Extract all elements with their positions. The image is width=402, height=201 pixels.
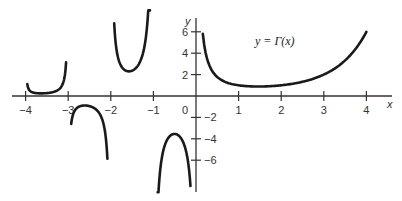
gamma-curve-branch <box>71 106 107 159</box>
y-axis-label: y <box>184 15 192 27</box>
x-axis-label: x <box>386 98 393 110</box>
gamma-curve-branch <box>158 134 191 192</box>
gamma-function-chart: −4−3−2−101234 642−2−4−6 x y y = Γ(x) <box>0 0 402 201</box>
gamma-curve-branch <box>114 10 150 71</box>
x-tick-label: 1 <box>236 104 242 116</box>
y-tick-label: −2 <box>204 111 217 123</box>
x-tick-label: −2 <box>105 104 118 116</box>
x-tick-label: 4 <box>363 104 369 116</box>
x-tick-label: 2 <box>278 104 284 116</box>
function-annotation: y = Γ(x) <box>254 34 295 48</box>
x-tick-label: −1 <box>147 104 160 116</box>
curves <box>27 10 366 192</box>
x-tick-label: 3 <box>321 104 327 116</box>
y-tick-label: −6 <box>204 154 217 166</box>
y-tick-label: 2 <box>182 69 188 81</box>
y-tick-label: 6 <box>182 26 188 38</box>
gamma-curve-branch <box>27 62 66 93</box>
x-tick-label: 0 <box>182 104 188 116</box>
y-tick-label: −4 <box>204 133 217 145</box>
x-tick-label: −4 <box>19 104 32 116</box>
y-tick-label: 4 <box>182 47 188 59</box>
x-ticks: −4−3−2−101234 <box>19 91 369 116</box>
